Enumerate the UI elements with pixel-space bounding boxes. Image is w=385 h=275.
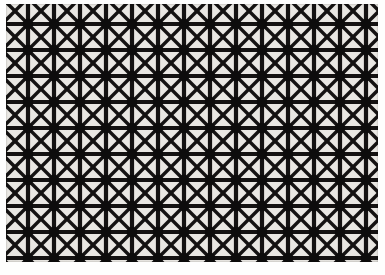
image-canvas: [0, 0, 385, 275]
lattice-pattern-graphic: [6, 4, 378, 262]
lattice-plate: [6, 4, 378, 262]
